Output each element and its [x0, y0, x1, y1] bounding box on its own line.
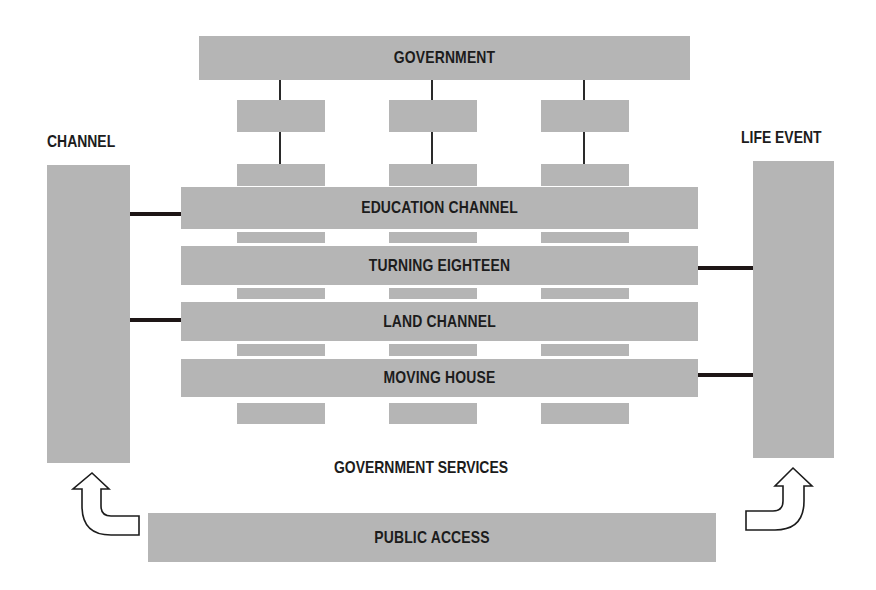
department-segment — [237, 288, 325, 299]
department-segment — [541, 403, 629, 424]
government-label: GOVERNMENT — [243, 48, 646, 68]
public-access-label: PUBLIC ACCESS — [199, 528, 665, 548]
department-segment — [237, 344, 325, 356]
channel-connector — [130, 212, 181, 216]
life-event-box — [753, 161, 834, 458]
department-segment — [237, 403, 325, 424]
life-event-connector — [698, 373, 753, 377]
bar-land-channel: LAND CHANNEL — [181, 302, 698, 341]
department-segment — [541, 232, 629, 243]
bar-label: LAND CHANNEL — [228, 312, 652, 332]
department-segment — [389, 403, 477, 424]
department-box — [541, 100, 629, 132]
bar-moving-house: MOVING HOUSE — [181, 359, 698, 397]
curved-up-arrow-icon — [70, 472, 142, 538]
department-segment — [541, 164, 629, 186]
public-access-box: PUBLIC ACCESS — [148, 513, 716, 562]
channel-connector — [130, 318, 181, 322]
bar-label: EDUCATION CHANNEL — [228, 198, 652, 218]
department-segment — [389, 288, 477, 299]
department-segment — [389, 232, 477, 243]
bar-turning-eighteen: TURNING EIGHTEEN — [181, 246, 698, 285]
government-box: GOVERNMENT — [199, 36, 690, 80]
life-event-heading: LIFE EVENT — [741, 128, 822, 148]
department-segment — [389, 164, 477, 186]
channel-heading: CHANNEL — [47, 132, 115, 152]
government-services-caption: GOVERNMENT SERVICES — [334, 458, 508, 478]
connector-line — [431, 132, 433, 164]
department-box — [389, 100, 477, 132]
connector-line — [583, 132, 585, 164]
bar-label: TURNING EIGHTEEN — [228, 256, 652, 276]
life-event-connector — [698, 266, 753, 270]
curved-up-arrow-icon — [744, 467, 816, 533]
department-segment — [541, 344, 629, 356]
department-box — [237, 100, 325, 132]
channel-box — [47, 165, 130, 463]
department-segment — [237, 232, 325, 243]
department-segment — [541, 288, 629, 299]
connector-line — [279, 132, 281, 164]
connector-line — [431, 80, 433, 100]
department-segment — [237, 164, 325, 186]
department-segment — [389, 344, 477, 356]
bar-education-channel: EDUCATION CHANNEL — [181, 187, 698, 229]
connector-line — [583, 80, 585, 100]
bar-label: MOVING HOUSE — [228, 368, 652, 388]
connector-line — [279, 80, 281, 100]
